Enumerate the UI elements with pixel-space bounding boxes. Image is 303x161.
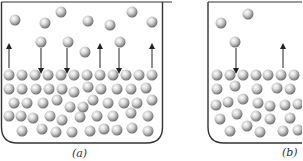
liquid-molecule xyxy=(103,98,114,109)
liquid-molecule xyxy=(242,121,253,132)
liquid-molecule xyxy=(238,94,249,105)
liquid-molecule xyxy=(141,83,152,94)
vapor-molecule xyxy=(40,18,51,29)
caption-b: (b) xyxy=(282,146,298,159)
liquid-molecule xyxy=(108,111,119,122)
liquid-molecule xyxy=(255,127,266,138)
liquid-molecule xyxy=(69,87,80,98)
liquid-molecule xyxy=(265,101,276,112)
liquid-molecule xyxy=(121,70,132,81)
vapor-molecule xyxy=(10,15,21,26)
liquid-molecule xyxy=(126,108,137,119)
liquid-molecule xyxy=(134,70,145,81)
liquid-molecule xyxy=(17,70,28,81)
liquid-molecule xyxy=(293,99,303,110)
liquid-molecule xyxy=(37,124,48,135)
liquid-molecule xyxy=(225,126,236,137)
liquid-molecule xyxy=(265,114,276,125)
liquid-molecule xyxy=(78,102,89,113)
liquid-molecule xyxy=(293,125,303,136)
liquid-molecule xyxy=(212,84,223,95)
liquid-molecule xyxy=(112,84,123,95)
liquid-molecule xyxy=(17,126,28,137)
liquid-molecule xyxy=(51,127,62,138)
liquid-molecule xyxy=(16,111,27,122)
escaping-molecule xyxy=(36,37,47,48)
liquid-molecule xyxy=(28,113,39,124)
vapor-molecule xyxy=(83,16,94,27)
liquid-molecule xyxy=(38,98,49,109)
liquid-molecule xyxy=(215,114,226,125)
liquid-molecule xyxy=(238,70,249,81)
liquid-molecule xyxy=(112,125,123,136)
liquid-molecule xyxy=(30,70,41,81)
liquid-molecule xyxy=(252,84,263,95)
liquid-molecule xyxy=(223,97,234,108)
liquid-molecule xyxy=(278,126,289,137)
liquid-molecule xyxy=(85,126,96,137)
liquid-molecule xyxy=(17,84,28,95)
liquid-molecule xyxy=(4,111,15,122)
liquid-molecule xyxy=(57,84,68,95)
vapor-molecule xyxy=(243,9,254,20)
liquid-molecule xyxy=(96,84,107,95)
vapor-molecule xyxy=(147,17,158,28)
liquid-molecule xyxy=(147,95,158,106)
liquid-molecule xyxy=(9,98,20,109)
liquid-molecule xyxy=(108,70,119,81)
liquid-molecule xyxy=(69,70,80,81)
liquid-molecule xyxy=(253,98,264,109)
liquid-molecule xyxy=(263,70,274,81)
liquid-molecule xyxy=(44,84,55,95)
liquid-molecule xyxy=(230,81,241,92)
liquid-molecule xyxy=(65,102,76,113)
liquid-molecule xyxy=(285,84,296,95)
liquid-molecule xyxy=(289,70,300,81)
escaping-molecule xyxy=(115,37,126,48)
liquid-molecule xyxy=(92,111,103,122)
escaping-molecule xyxy=(80,47,91,58)
caption-a: (a) xyxy=(72,147,87,160)
liquid-molecule xyxy=(57,115,68,126)
escaping-molecule xyxy=(63,37,74,48)
liquid-molecule xyxy=(143,111,154,122)
liquid-molecule xyxy=(4,70,15,81)
liquid-molecule xyxy=(43,70,54,81)
beaker-a xyxy=(2,2,173,143)
liquid-molecule xyxy=(127,123,138,134)
liquid-molecule xyxy=(95,70,106,81)
liquid-molecule xyxy=(280,100,291,111)
liquid-molecule xyxy=(251,111,262,122)
liquid-molecule xyxy=(143,126,154,137)
escaping-molecule xyxy=(230,37,241,48)
evaporation-diagram xyxy=(0,0,302,161)
liquid-molecule xyxy=(126,84,137,95)
liquid-molecule xyxy=(211,100,222,111)
liquid-molecule xyxy=(83,82,94,93)
liquid-molecule xyxy=(75,112,86,123)
liquid-molecule xyxy=(31,84,42,95)
liquid-molecule xyxy=(147,70,158,81)
liquid-molecule xyxy=(82,70,93,81)
liquid-molecule xyxy=(276,70,287,81)
liquid-molecule xyxy=(67,127,78,138)
beaker-b xyxy=(208,2,302,143)
liquid-molecule xyxy=(212,70,223,81)
liquid-molecule xyxy=(56,70,67,81)
liquid-molecule xyxy=(22,98,33,109)
vapor-molecule xyxy=(56,7,67,18)
liquid-molecule xyxy=(285,113,296,124)
liquid-molecule xyxy=(4,84,15,95)
vapor-molecule xyxy=(127,7,138,18)
liquid-molecule xyxy=(272,83,283,94)
liquid-molecule xyxy=(225,70,236,81)
liquid-molecule xyxy=(251,70,262,81)
liquid-molecule xyxy=(99,124,110,135)
liquid-molecule xyxy=(132,98,143,109)
liquid-molecule xyxy=(52,95,63,106)
liquid-molecule xyxy=(88,95,99,106)
vapor-molecule xyxy=(216,18,227,29)
vapor-molecule xyxy=(105,20,116,31)
liquid-molecule xyxy=(45,111,56,122)
liquid-molecule xyxy=(119,98,130,109)
